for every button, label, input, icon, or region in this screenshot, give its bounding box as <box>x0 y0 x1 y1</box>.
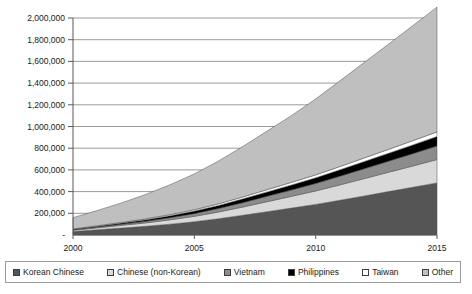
y-tick-label: 1,600,000 <box>27 56 65 66</box>
legend-item[interactable]: Other <box>422 267 453 277</box>
y-tick-label: 1,800,000 <box>27 35 65 45</box>
plot-area: -200,000400,000600,000800,0001,000,0001,… <box>0 0 472 258</box>
y-tick-label: 400,000 <box>34 187 65 197</box>
y-tick-label: 1,000,000 <box>27 122 65 132</box>
plot-svg: -200,000400,000600,000800,0001,000,0001,… <box>0 0 472 258</box>
x-tick-label: 2000 <box>64 243 83 253</box>
y-tick-label: 1,200,000 <box>27 100 65 110</box>
y-tick-label: 2,000,000 <box>27 13 65 23</box>
y-tick-label: 800,000 <box>34 143 65 153</box>
legend-swatch-taiwan <box>362 269 369 276</box>
legend-item[interactable]: Korean Chinese <box>13 267 84 277</box>
legend-swatch-other <box>422 269 429 276</box>
y-tick-label: - <box>62 230 65 240</box>
legend-swatch-chinese-non-korean <box>107 269 114 276</box>
y-tick-label: 1,400,000 <box>27 78 65 88</box>
x-tick-label: 2005 <box>185 243 204 253</box>
legend-label: Other <box>432 267 453 277</box>
legend-label: Taiwan <box>372 267 398 277</box>
y-tick-label: 600,000 <box>34 165 65 175</box>
x-tick-label: 2010 <box>306 243 325 253</box>
legend-swatch-vietnam <box>224 269 231 276</box>
legend-item[interactable]: Chinese (non-Korean) <box>107 267 201 277</box>
x-axis-tick-labels: 2000200520102015 <box>64 243 447 253</box>
legend-label: Vietnam <box>234 267 265 277</box>
y-tick-label: 200,000 <box>34 208 65 218</box>
legend-label: Chinese (non-Korean) <box>117 267 201 277</box>
legend-swatch-korean-chinese <box>13 269 20 276</box>
legend-item[interactable]: Taiwan <box>362 267 398 277</box>
legend-swatch-philippines <box>288 269 295 276</box>
chart-legend: Korean ChineseChinese (non-Korean)Vietna… <box>5 261 461 283</box>
stacked-area-chart: -200,000400,000600,000800,0001,000,0001,… <box>0 0 472 294</box>
area-series-group <box>73 7 437 235</box>
legend-label: Korean Chinese <box>23 267 84 277</box>
y-axis-tick-labels: -200,000400,000600,000800,0001,000,0001,… <box>27 13 73 240</box>
legend-item[interactable]: Philippines <box>288 267 339 277</box>
legend-label: Philippines <box>298 267 339 277</box>
legend-item[interactable]: Vietnam <box>224 267 265 277</box>
x-tick-label: 2015 <box>428 243 447 253</box>
